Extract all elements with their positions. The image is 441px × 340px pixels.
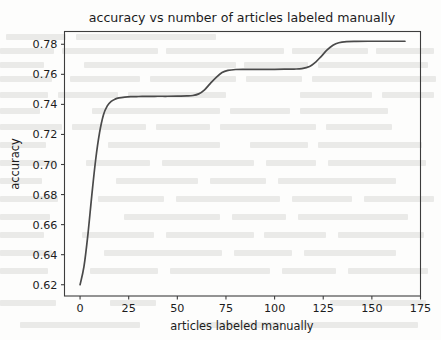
x-axis-label: articles labeled manually — [170, 319, 314, 333]
x-tick-label: 25 — [122, 302, 136, 315]
plot-spines — [65, 32, 421, 297]
x-tick-label: 0 — [77, 302, 84, 315]
y-tick-label: 0.68 — [33, 189, 58, 202]
y-axis-label: accuracy — [8, 138, 22, 190]
accuracy-line — [80, 41, 405, 284]
x-tick-label: 100 — [264, 302, 285, 315]
data-series-group — [80, 41, 405, 284]
x-tick-label: 175 — [410, 302, 431, 315]
y-tick-label: 0.64 — [33, 249, 58, 262]
accuracy-line-chart: accuracy vs number of articles labeled m… — [0, 0, 441, 340]
x-tick-label: 75 — [219, 302, 233, 315]
x-tick-label: 150 — [361, 302, 382, 315]
y-tick-label: 0.78 — [33, 38, 58, 51]
y-tick-label: 0.74 — [33, 98, 58, 111]
y-tick-label: 0.72 — [33, 128, 58, 141]
y-axis-ticks: 0.620.640.660.680.700.720.740.760.78 — [33, 38, 65, 291]
x-tick-label: 125 — [313, 302, 334, 315]
chart-title: accuracy vs number of articles labeled m… — [89, 10, 396, 25]
chart-figure: accuracy vs number of articles labeled m… — [0, 0, 441, 340]
y-tick-label: 0.70 — [33, 159, 58, 172]
y-tick-label: 0.62 — [33, 279, 58, 292]
y-tick-label: 0.76 — [33, 68, 58, 81]
y-tick-label: 0.66 — [33, 219, 58, 232]
x-tick-label: 50 — [170, 302, 184, 315]
x-axis-ticks: 0255075100125150175 — [77, 296, 432, 315]
